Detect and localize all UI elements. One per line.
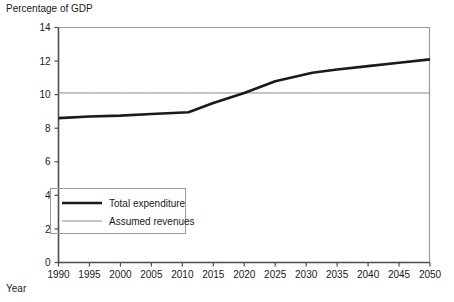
x-tick-label: 2015	[202, 269, 225, 280]
y-tick-label: 12	[39, 56, 51, 67]
x-tick-label: 2020	[233, 269, 256, 280]
x-tick-label: 2045	[388, 269, 411, 280]
legend-label: Assumed revenues	[109, 216, 195, 227]
chart-plot-area: 02468101214 1990199520002005201020152020…	[0, 0, 454, 302]
x-axis-ticks: 1990199520002005201020152020202520302035…	[47, 263, 441, 280]
y-axis-ticks: 02468101214	[39, 22, 58, 268]
chart-legend: Total expenditureAssumed revenues	[51, 189, 195, 234]
x-tick-label: 2035	[326, 269, 349, 280]
x-tick-label: 2025	[264, 269, 287, 280]
data-series-layer	[59, 59, 431, 118]
x-tick-label: 1995	[78, 269, 101, 280]
y-tick-label: 6	[45, 156, 51, 167]
legend-label: Total expenditure	[109, 198, 186, 209]
y-tick-label: 10	[39, 89, 51, 100]
x-tick-label: 2005	[140, 269, 163, 280]
y-tick-label: 14	[39, 22, 51, 33]
x-tick-label: 2040	[357, 269, 380, 280]
chart-container: Percentage of GDP 02468101214 1990199520…	[0, 0, 454, 302]
series-line	[59, 59, 431, 118]
x-axis-title: Year	[6, 283, 26, 295]
y-tick-label: 8	[45, 123, 51, 134]
y-tick-label: 0	[45, 257, 51, 268]
x-tick-label: 1990	[47, 269, 70, 280]
x-tick-label: 2050	[419, 269, 442, 280]
axis-lines	[58, 27, 430, 263]
x-tick-label: 2030	[295, 269, 318, 280]
legend-border	[51, 189, 186, 234]
x-tick-label: 2000	[109, 269, 132, 280]
x-tick-label: 2010	[171, 269, 194, 280]
